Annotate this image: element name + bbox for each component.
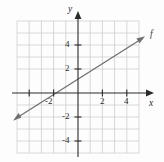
- x-axis: [12, 90, 154, 97]
- y-axis-label: y: [68, 5, 72, 14]
- line-arrow-right: [136, 36, 145, 43]
- graph-figure: 4 2 -2 -4 -2 2 4 y x f: [0, 0, 164, 162]
- x-axis-label: x: [149, 99, 153, 108]
- function-line-f: [13, 36, 145, 121]
- coordinate-plane-svg: [0, 0, 164, 162]
- x-tick-label-4: 4: [124, 97, 129, 106]
- y-tick-label-neg2: -2: [62, 112, 70, 121]
- y-tick-label-4: 4: [65, 40, 70, 49]
- y-tick-label-neg4: -4: [62, 136, 70, 145]
- y-axis-arrowhead: [75, 11, 82, 19]
- x-axis-arrowhead: [146, 90, 154, 97]
- y-tick-label-2: 2: [65, 64, 70, 73]
- x-tick-label-2: 2: [100, 97, 105, 106]
- function-label-f: f: [150, 30, 153, 39]
- x-tick-label-neg2: -2: [45, 97, 53, 106]
